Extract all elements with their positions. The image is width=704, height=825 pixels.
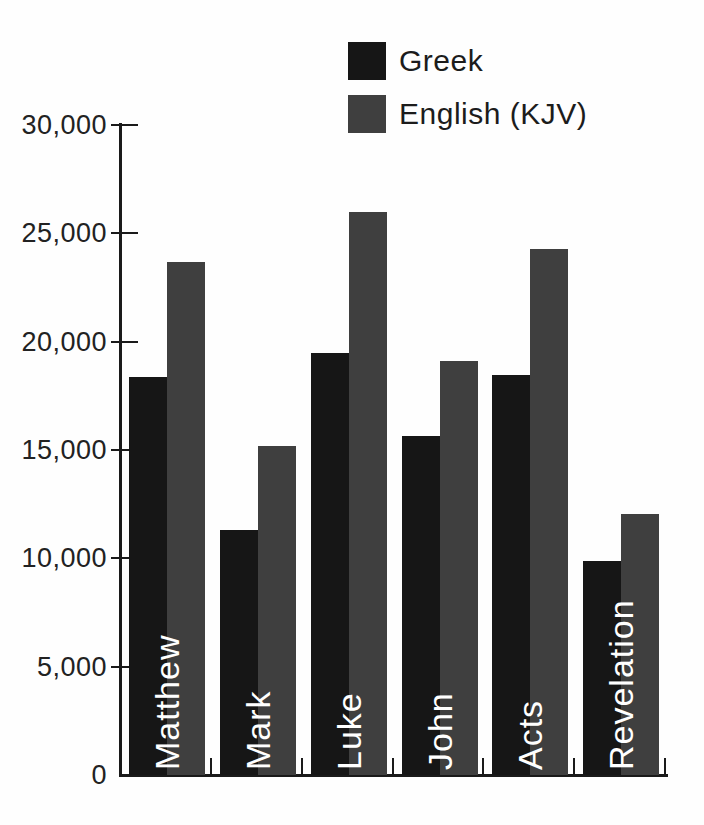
category-label-revelation: Revelation bbox=[603, 599, 639, 770]
category-label-matthew: Matthew bbox=[149, 635, 185, 771]
legend-item-greek: Greek bbox=[348, 42, 483, 80]
legend-label-greek: Greek bbox=[399, 44, 483, 78]
x-axis-tick bbox=[482, 758, 484, 775]
legend-label-english-kjv: English (KJV) bbox=[399, 97, 587, 131]
y-tick-label: 30,000 bbox=[0, 110, 107, 140]
legend-swatch-english-kjv bbox=[348, 95, 386, 133]
category-label-acts: Acts bbox=[512, 700, 548, 770]
y-tick-label: 25,000 bbox=[0, 218, 107, 248]
bar-chart: Greek English (KJV) 05,00010,00015,00020… bbox=[0, 0, 704, 825]
y-tick-label: 10,000 bbox=[0, 543, 107, 573]
y-tick-label: 0 bbox=[0, 760, 107, 790]
y-axis-tick bbox=[111, 124, 138, 126]
x-axis-tick bbox=[664, 758, 666, 775]
y-axis-tick bbox=[111, 341, 138, 343]
bar-english-kjv-luke bbox=[349, 212, 387, 775]
x-axis-tick bbox=[210, 758, 212, 775]
bar-english-kjv-acts bbox=[530, 249, 568, 776]
x-axis-tick bbox=[392, 758, 394, 775]
legend-item-english-kjv: English (KJV) bbox=[348, 95, 587, 133]
legend-swatch-greek bbox=[348, 42, 386, 80]
x-axis-tick bbox=[301, 758, 303, 775]
y-tick-label: 15,000 bbox=[0, 435, 107, 465]
y-tick-label: 20,000 bbox=[0, 327, 107, 357]
category-label-john: John bbox=[422, 692, 458, 770]
x-axis-tick bbox=[573, 758, 575, 775]
y-axis-tick bbox=[111, 232, 138, 234]
category-label-luke: Luke bbox=[331, 692, 367, 770]
y-tick-label: 5,000 bbox=[0, 652, 107, 682]
category-label-mark: Mark bbox=[240, 690, 276, 770]
